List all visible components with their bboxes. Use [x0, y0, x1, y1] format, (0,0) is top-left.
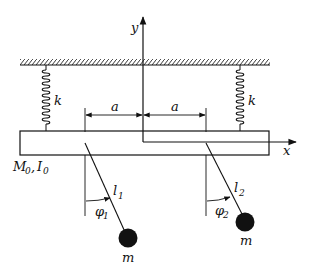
- rigid-block: [20, 131, 269, 155]
- pendulum-1: [85, 143, 138, 248]
- dimension-a: [85, 108, 206, 132]
- spring-left-label: k: [54, 93, 62, 108]
- y-axis-label: y: [130, 20, 139, 35]
- ceiling: [20, 59, 270, 65]
- svg-text:2: 2: [238, 188, 245, 198]
- block-label: M 0 , I 0: [12, 159, 49, 176]
- pendulum-1-length-label: l 1: [113, 183, 124, 201]
- svg-text:l: l: [234, 180, 238, 195]
- mass-1: [119, 229, 138, 248]
- pendulum-2: [206, 143, 255, 232]
- svg-text:,: ,: [31, 159, 35, 174]
- svg-text:1: 1: [118, 191, 124, 201]
- svg-text:1: 1: [103, 211, 109, 221]
- mass-1-label: m: [122, 250, 134, 265]
- dim-right-label: a: [171, 99, 179, 114]
- svg-text:I: I: [36, 159, 43, 174]
- svg-text:l: l: [113, 183, 117, 198]
- dim-left-label: a: [111, 99, 119, 114]
- pendulum-1-angle-label: φ 1: [95, 204, 109, 221]
- mass-2-label: m: [240, 233, 252, 248]
- svg-text:2: 2: [222, 210, 229, 220]
- x-axis-label: x: [283, 143, 291, 158]
- svg-text:0: 0: [43, 166, 49, 176]
- spring-right: [236, 65, 244, 131]
- pendulum-2-angle-label: φ 2: [215, 203, 229, 220]
- diagram-canvas: y x k k a a M 0 , I 0 l 1 l 2 φ 1 φ 2 m …: [0, 0, 310, 271]
- mass-2: [236, 213, 255, 232]
- spring-right-label: k: [248, 93, 256, 108]
- mechanical-diagram: y x k k a a M 0 , I 0 l 1 l 2 φ 1 φ 2 m …: [0, 0, 310, 271]
- pendulum-2-length-label: l 2: [234, 180, 245, 198]
- spring-left: [42, 65, 50, 131]
